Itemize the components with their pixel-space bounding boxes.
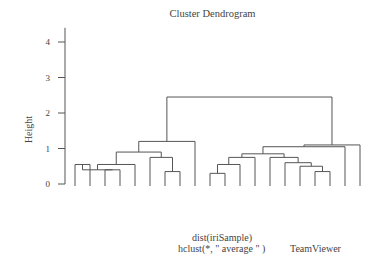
chart-title: Cluster Dendrogram (0, 8, 385, 19)
dendrogram-chart: 01234 Cluster Dendrogram Height dist(iri… (0, 0, 385, 270)
method-subtitle: hclust(*, " average " ) (178, 243, 265, 254)
x-axis-label: dist(iriSample) (192, 232, 252, 243)
y-tick-label: 1 (46, 144, 51, 154)
y-tick-label: 4 (46, 37, 51, 47)
y-tick-label: 0 (46, 179, 51, 189)
y-tick-label: 3 (46, 73, 51, 83)
watermark: TeamViewer (290, 243, 341, 254)
dendrogram-plot: 01234 (0, 0, 385, 270)
y-tick-label: 2 (46, 108, 51, 118)
y-axis-label: Height (23, 105, 34, 155)
